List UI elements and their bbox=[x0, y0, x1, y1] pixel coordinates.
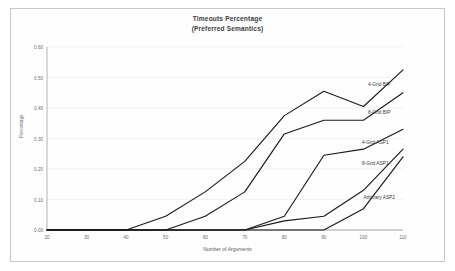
series-line bbox=[47, 129, 403, 230]
series-line bbox=[47, 149, 403, 230]
y-tick-label: 0.60 bbox=[22, 45, 43, 50]
y-tick-label: 0.20 bbox=[22, 167, 43, 172]
chart-figure: Timeouts Percentage (Preferred Semantics… bbox=[0, 0, 455, 271]
x-tick-label: 30 bbox=[84, 235, 89, 240]
x-tick-label: 50 bbox=[163, 235, 168, 240]
x-tick-label: 40 bbox=[124, 235, 129, 240]
y-axis-label: Percentage bbox=[19, 115, 24, 139]
y-tick-label: 0.10 bbox=[22, 197, 43, 202]
series-label: 4-Grid ASP1 bbox=[362, 140, 389, 145]
y-tick-label: 0.30 bbox=[22, 136, 43, 141]
x-tick-label: 70 bbox=[242, 235, 247, 240]
series-label: 8-Grid BIP bbox=[368, 110, 390, 115]
chart-plot-area bbox=[0, 0, 455, 271]
x-tick-label: 80 bbox=[282, 235, 287, 240]
y-tick-label: 0.00 bbox=[22, 228, 43, 233]
x-tick-label: 110 bbox=[399, 235, 406, 240]
series-label: 8-Grid ASP1 bbox=[362, 161, 389, 166]
series-label: 4-Grid BIP bbox=[368, 82, 390, 87]
x-tick-label: 90 bbox=[321, 235, 326, 240]
y-tick-label: 0.40 bbox=[22, 106, 43, 111]
x-axis-label: Number of Arguments bbox=[0, 246, 455, 252]
series-lines bbox=[47, 70, 403, 230]
series-line bbox=[47, 157, 403, 230]
series-label: Arbitrary ASP2 bbox=[364, 195, 395, 200]
x-tick-label: 60 bbox=[203, 235, 208, 240]
series-line bbox=[47, 70, 403, 230]
x-tick-label: 20 bbox=[44, 235, 49, 240]
y-tick-label: 0.50 bbox=[22, 75, 43, 80]
x-tick-label: 100 bbox=[360, 235, 368, 240]
series-line bbox=[47, 93, 403, 230]
